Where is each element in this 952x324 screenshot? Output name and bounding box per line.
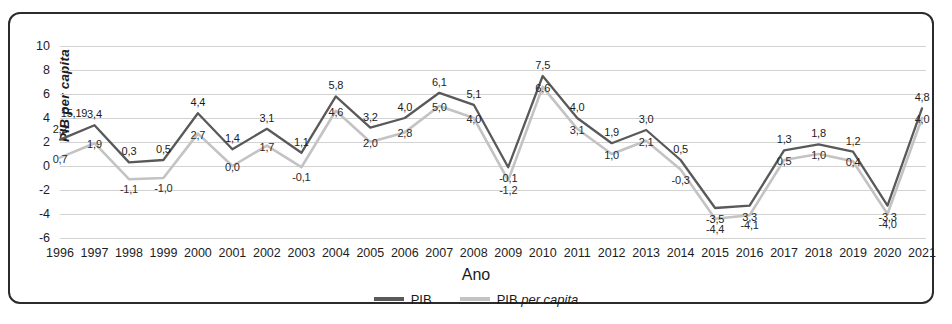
data-label: 1,3 (777, 133, 792, 145)
data-label: 4,8 (915, 91, 930, 103)
data-label: 7,5 (535, 59, 550, 71)
data-label: -0,1 (292, 171, 310, 183)
x-axis-tick: 2008 (460, 246, 488, 260)
x-axis-tick: 2019 (839, 246, 867, 260)
data-label: 2,2 (53, 123, 68, 135)
x-axis-tick: 2010 (529, 246, 557, 260)
data-label: 0,0 (225, 161, 240, 173)
x-axis-tick: 1997 (81, 246, 109, 260)
chart-legend: PIBPIB per capita (0, 290, 952, 307)
data-label: -1,2 (499, 184, 517, 196)
x-axis-tick: 2013 (632, 246, 660, 260)
data-label: 0,5 (777, 155, 792, 167)
data-label: 4,0 (915, 113, 930, 125)
x-axis-tick: 2012 (598, 246, 626, 260)
x-axis-title: Ano (0, 266, 952, 284)
data-label: 2,7 (191, 129, 206, 141)
data-label: 0,5 (673, 143, 688, 155)
data-label: 4,0 (570, 101, 585, 113)
x-axis-tick: 2020 (874, 246, 902, 260)
x-axis-tick: 2006 (391, 246, 419, 260)
data-label: 6,1 (432, 76, 447, 88)
data-label: 3,4 (87, 108, 102, 120)
data-label: 1,2 (846, 135, 861, 147)
data-label: 4,4 (191, 96, 206, 108)
data-label: 2,1 (639, 136, 654, 148)
data-label: 5,1 (466, 88, 481, 100)
chart-canvas: PIB per capita 1086420-2-4-6 2,23,40,30,… (0, 0, 952, 324)
x-axis-tick: 2017 (770, 246, 798, 260)
data-label: 5,0 (432, 101, 447, 113)
x-axis-tick: 2001 (218, 246, 246, 260)
x-axis-tick: 1996 (46, 246, 74, 260)
x-axis-tick: 2015 (701, 246, 729, 260)
x-axis-tick: 2009 (494, 246, 522, 260)
data-label: -4,4 (706, 223, 724, 235)
legend-label-italic: per capita (521, 292, 578, 307)
data-label: 2,0 (363, 137, 378, 149)
data-label: 4,0 (397, 101, 412, 113)
data-label: -1,0 (154, 182, 172, 194)
legend-label: PIB (497, 292, 522, 307)
x-axis-tick: 2021 (908, 246, 936, 260)
x-axis-tick: 2016 (736, 246, 764, 260)
data-label: 4,0 (466, 113, 481, 125)
data-label: 3,1 (260, 112, 275, 124)
x-axis-tick: 2003 (287, 246, 315, 260)
legend-entry[interactable]: PIB per capita (460, 291, 579, 307)
legend-label: PIB (411, 292, 432, 307)
x-axis-tick: 2014 (667, 246, 695, 260)
x-axis-tick: 2000 (184, 246, 212, 260)
x-axis-tick: 2011 (564, 246, 591, 260)
x-axis-tick: 2007 (425, 246, 453, 260)
data-label: 1,9 (87, 138, 102, 150)
data-label: -0,3 (672, 174, 690, 186)
data-label: -4,1 (741, 219, 759, 231)
data-label: 3,1 (570, 124, 585, 136)
data-label: 2,8 (397, 127, 412, 139)
x-axis-tick: 2002 (253, 246, 281, 260)
data-label: 0,5 (156, 143, 171, 155)
data-label: 3,0 (639, 113, 654, 125)
data-label: 0,7 (53, 153, 68, 165)
x-axis-tick: 1998 (115, 246, 143, 260)
data-label: 3,2 (363, 111, 378, 123)
series-line-pib-per-capita (60, 87, 922, 219)
x-axis-tick: 1999 (150, 246, 178, 260)
data-label: 1,1 (294, 136, 309, 148)
data-label: 1,7 (260, 141, 275, 153)
data-label: -0,1 (499, 172, 517, 184)
legend-swatch (374, 297, 404, 300)
data-label: 5,8 (328, 79, 343, 91)
data-label: 4,6 (328, 106, 343, 118)
data-label: 6,6 (535, 82, 550, 94)
data-label: 1,4 (225, 132, 240, 144)
data-label: 1,8 (811, 127, 826, 139)
data-label: 1,0 (604, 149, 619, 161)
legend-entry[interactable]: PIB (374, 291, 432, 307)
data-label: 0,4 (846, 156, 861, 168)
x-axis-tick: 2005 (356, 246, 384, 260)
data-label: 0,3 (122, 145, 137, 157)
series-line-pib (60, 76, 922, 208)
data-label: 1,9 (604, 126, 619, 138)
data-label: -1,1 (120, 183, 138, 195)
legend-swatch (460, 297, 490, 300)
data-label: 1,0 (811, 149, 826, 161)
data-label: -4,0 (878, 218, 896, 230)
data-annotation: 15,19 (61, 107, 88, 119)
x-axis-tick: 2018 (805, 246, 833, 260)
x-axis-tick: 2004 (322, 246, 350, 260)
